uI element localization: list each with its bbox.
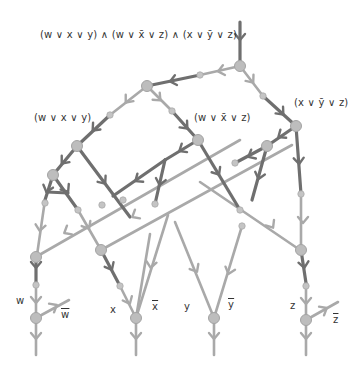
- node-r1: [296, 245, 307, 256]
- root-node: [235, 61, 246, 72]
- node-f: [48, 170, 59, 181]
- node-z: [301, 315, 312, 326]
- node-x: [131, 313, 142, 324]
- variable-label-y: y: [184, 301, 190, 312]
- variable-label-x: x: [110, 304, 116, 315]
- variable-label-z-negated: z: [333, 314, 338, 325]
- variable-label-w-negated: w: [61, 309, 69, 320]
- node-y: [209, 313, 220, 324]
- node-g: [96, 245, 107, 256]
- node-b: [142, 81, 153, 92]
- sat-reduction-diagram: [0, 0, 360, 377]
- variable-label-w: w: [16, 295, 24, 306]
- variable-label-y-negated: y: [228, 299, 234, 310]
- clause-label-2: (w ∨ x̄ ∨ z): [194, 112, 251, 123]
- node-c: [291, 121, 302, 132]
- node-d: [72, 141, 83, 152]
- clause-label-1: (w ∨ x ∨ y): [34, 112, 91, 123]
- variable-label-x-negated: x: [152, 301, 158, 312]
- node-w: [31, 313, 42, 324]
- node-e: [193, 135, 204, 146]
- variable-label-z: z: [290, 300, 295, 311]
- formula-label: (w ∨ x ∨ y) ∧ (w ∨ x̄ ∨ z) ∧ (x ∨ ȳ ∨ z): [40, 29, 237, 40]
- node-l1: [31, 252, 42, 263]
- clause-label-3: (x ∨ ȳ ∨ z): [294, 97, 348, 108]
- node-j: [262, 141, 273, 152]
- dark-edges: [36, 22, 306, 286]
